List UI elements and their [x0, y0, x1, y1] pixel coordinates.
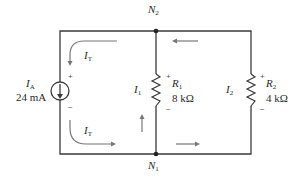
r2-minus-sign: −: [260, 106, 265, 114]
node-n1-label: N1: [148, 160, 159, 173]
r2-plus-sign: +: [260, 73, 265, 81]
source-arrow-icon: [57, 94, 63, 99]
node-n2-dot: [154, 29, 159, 34]
node-n1-dot: [154, 152, 159, 157]
source-minus-sign: −: [68, 104, 73, 112]
resistor-r1-icon: [152, 74, 160, 106]
r1-value-label: 8 kΩ: [172, 93, 194, 104]
it-top-arrow-icon: [70, 41, 117, 62]
source-plus-sign: +: [68, 73, 73, 81]
r1-minus-sign: −: [166, 106, 171, 114]
r2-name-label: R2: [266, 78, 276, 91]
i1-label: I1: [134, 84, 141, 97]
i2-label: I2: [226, 84, 233, 97]
source-name-label: IA: [26, 78, 35, 91]
it-top-label: IT: [84, 50, 92, 63]
source-value-label: 24 mA: [16, 92, 46, 103]
it-bottom-label: IT: [84, 125, 92, 138]
r2-value-label: 4 kΩ: [266, 93, 288, 104]
node-n2-label: N2: [148, 4, 159, 17]
r1-name-label: R1: [172, 78, 182, 91]
r1-plus-sign: +: [166, 73, 171, 81]
circuit-diagram: [0, 0, 304, 178]
resistor-r2-icon: [247, 74, 255, 106]
